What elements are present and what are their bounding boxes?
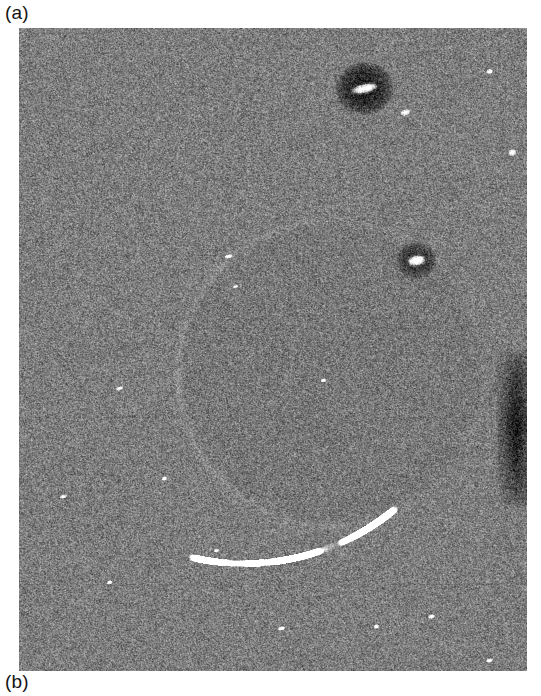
figure-root: (a) (b): [0, 0, 541, 696]
sar-image-canvas: [19, 28, 527, 671]
panel-label-a: (a): [5, 3, 29, 22]
sar-image-panel: [19, 28, 527, 671]
panel-label-b: (b): [5, 672, 29, 691]
